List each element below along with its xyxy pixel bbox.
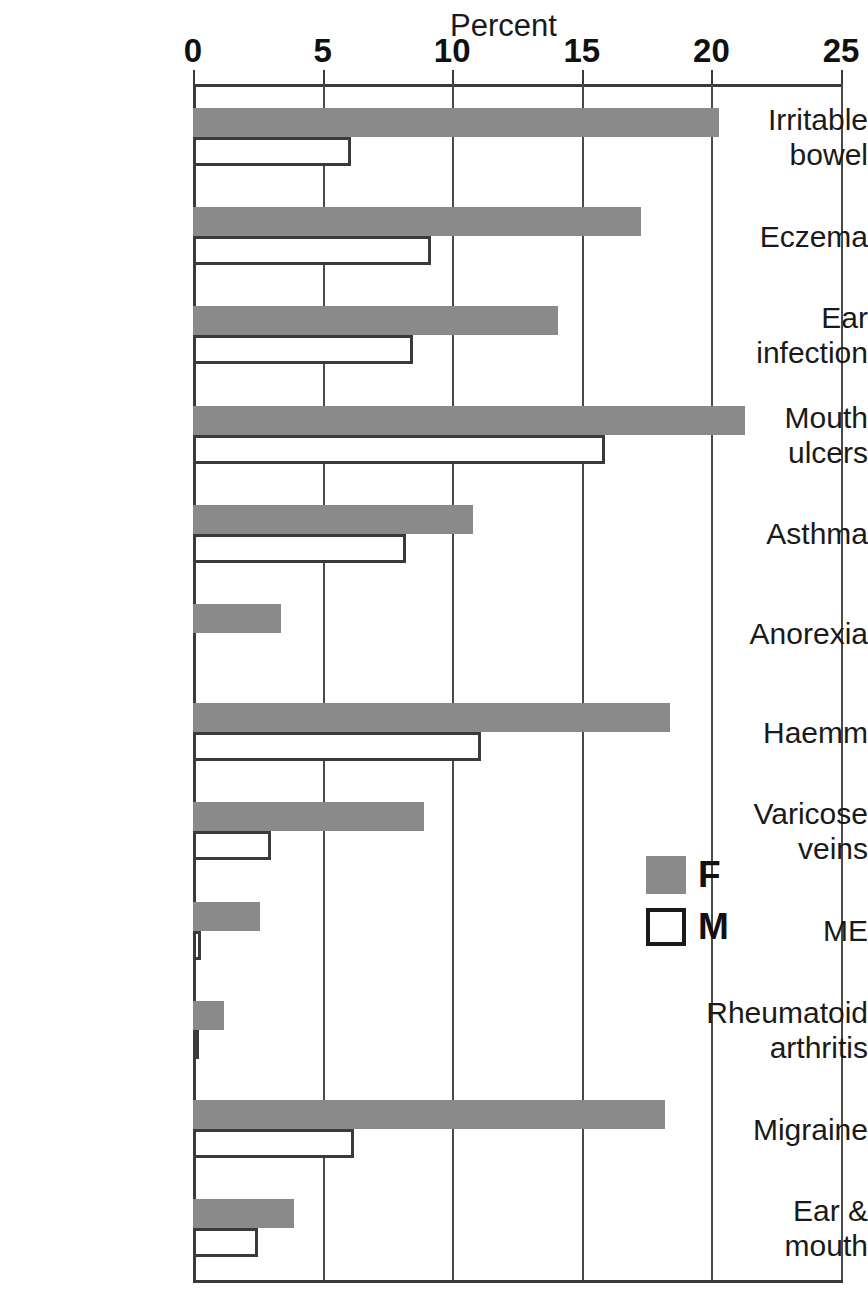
legend-item-m: M — [646, 904, 729, 950]
bar-f-9 — [193, 1001, 224, 1030]
category-label-9: Rheumatoid arthritis — [683, 995, 868, 1065]
bar-chart: Percent 0510152025 Irritable bowelEczema… — [0, 0, 868, 1311]
bar-f-5 — [193, 604, 281, 633]
legend-swatch-male-icon — [646, 908, 686, 946]
bar-f-11 — [193, 1199, 294, 1228]
bar-m-7 — [193, 831, 271, 860]
x-tick-label-20: 20 — [693, 32, 730, 70]
bar-f-2 — [193, 306, 558, 335]
bar-m-3 — [193, 435, 605, 464]
gridline-20 — [711, 84, 713, 1280]
bar-f-6 — [193, 703, 670, 732]
x-tick-mark-0 — [193, 70, 195, 86]
category-label-11: Ear & mouth — [683, 1193, 868, 1263]
bar-m-6 — [193, 732, 481, 761]
category-label-6: Haemm — [683, 715, 868, 750]
x-tick-label-5: 5 — [313, 32, 331, 70]
bar-m-4 — [193, 534, 406, 563]
bar-m-1 — [193, 236, 431, 265]
x-axis-top-line — [193, 84, 843, 87]
legend-label-f: F — [698, 856, 721, 894]
legend-swatch-female-icon — [646, 856, 686, 894]
x-tick-label-0: 0 — [184, 32, 202, 70]
bar-f-8 — [193, 902, 260, 931]
category-label-10: Migraine — [683, 1112, 868, 1147]
bar-m-10 — [193, 1129, 354, 1158]
legend-label-m: M — [698, 908, 729, 946]
category-label-3: Mouth ulcers — [683, 400, 868, 470]
legend-item-f: F — [646, 852, 729, 898]
category-label-0: Irritable bowel — [683, 102, 868, 172]
bar-f-7 — [193, 802, 424, 831]
bar-f-10 — [193, 1100, 665, 1129]
bar-f-0 — [193, 108, 719, 137]
bar-m-9 — [193, 1030, 199, 1059]
legend: F M — [646, 852, 729, 956]
bar-m-2 — [193, 335, 413, 364]
bar-f-4 — [193, 505, 473, 534]
gridline-25 — [841, 84, 843, 1280]
bar-f-1 — [193, 207, 641, 236]
x-tick-label-25: 25 — [823, 32, 860, 70]
category-label-1: Eczema — [683, 219, 868, 254]
category-label-5: Anorexia — [683, 616, 868, 651]
bar-m-0 — [193, 137, 351, 166]
bar-m-11 — [193, 1228, 258, 1257]
bar-f-3 — [193, 406, 745, 435]
bar-m-8 — [193, 931, 201, 960]
category-label-2: Ear infection — [683, 300, 868, 370]
x-tick-label-15: 15 — [563, 32, 600, 70]
category-label-4: Asthma — [683, 516, 868, 551]
x-tick-label-10: 10 — [434, 32, 471, 70]
x-axis-bottom-line — [193, 1280, 843, 1283]
